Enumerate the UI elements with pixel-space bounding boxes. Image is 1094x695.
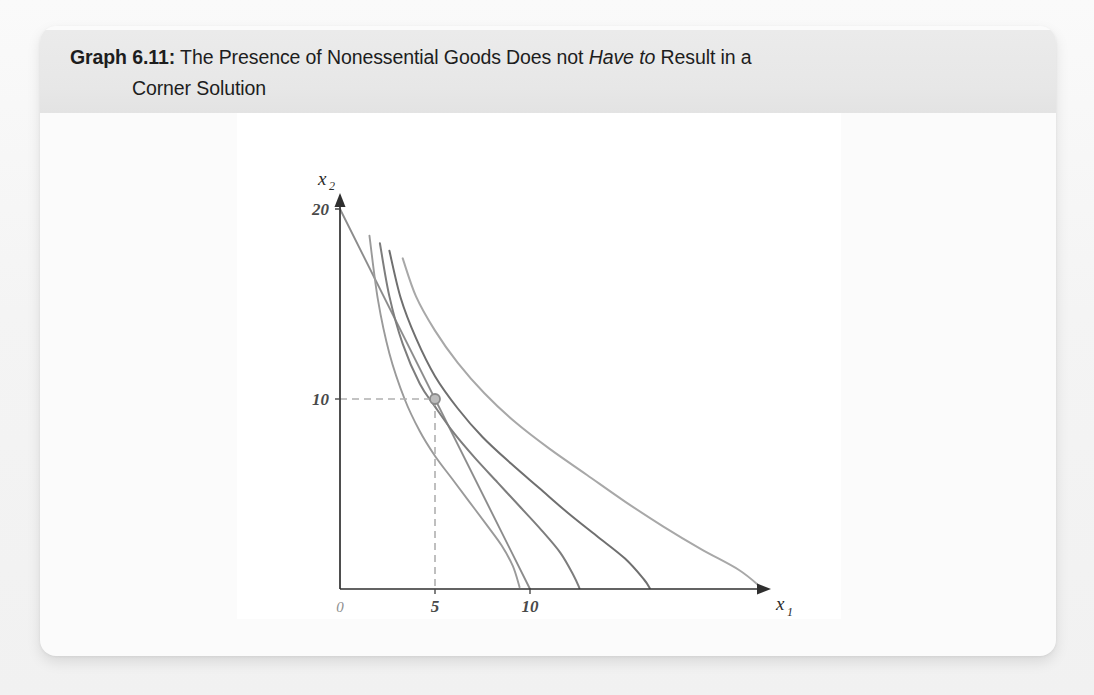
caption-line-2: Corner Solution (70, 73, 1000, 104)
caption-text-b: Result in a (655, 46, 751, 68)
series-indifference-curve-1 (369, 236, 519, 587)
y-axis-label: x (317, 168, 327, 189)
point-markers-layer (430, 394, 440, 404)
y-axis-arrowhead-icon (335, 193, 346, 207)
figure-caption: Graph 6.11: The Presence of Nonessential… (70, 42, 1000, 104)
x-axis-label-subscript: 1 (787, 605, 793, 619)
optimal-bundle-marker (430, 394, 440, 404)
x-tick-label-0: 0 (336, 599, 344, 615)
indifference-curve-chart: 05101020x2x1 (237, 113, 841, 619)
series-indifference-curve-3 (389, 251, 649, 588)
x-axis-arrowhead-icon (757, 584, 771, 595)
series-indifference-curve-2 (380, 243, 580, 588)
plot-panel: 05101020x2x1 (237, 113, 841, 619)
caption-text-italic: Have to (589, 46, 656, 68)
y-tick-label-20: 20 (311, 200, 330, 219)
caption-text-a: The Presence of Nonessential Goods Does … (175, 46, 589, 68)
guide-lines-layer (340, 399, 435, 589)
x-axis-label: x (775, 593, 785, 614)
axis-labels-layer: 05101020x2x1 (311, 168, 793, 619)
y-axis-label-subscript: 2 (329, 179, 335, 193)
x-tick-label-5: 5 (431, 597, 440, 616)
series-indifference-curve-4 (403, 258, 762, 588)
figure-card: Graph 6.11: The Presence of Nonessential… (40, 26, 1056, 656)
x-tick-label-10: 10 (522, 597, 540, 616)
caption-label: Graph 6.11: (70, 46, 175, 68)
axes-layer (335, 193, 772, 595)
y-tick-label-10: 10 (312, 390, 330, 409)
